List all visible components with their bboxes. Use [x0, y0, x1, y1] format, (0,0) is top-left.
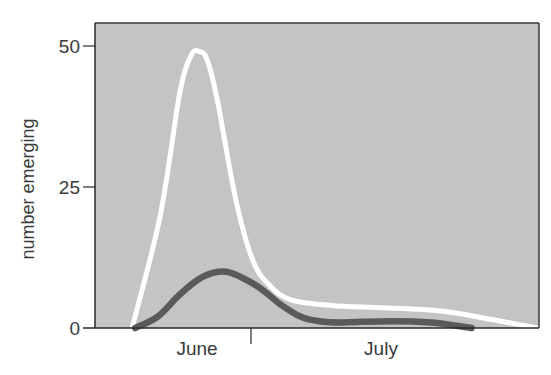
x-label-june: June — [176, 338, 217, 359]
plot-background — [95, 23, 539, 328]
y-tick-label-0: 0 — [69, 318, 80, 339]
y-tick-label-25: 25 — [59, 177, 80, 198]
emergence-line-chart: 50 25 0 June July number emerging — [0, 0, 551, 375]
y-tick-label-50: 50 — [59, 36, 80, 57]
y-axis-title: number emerging — [18, 118, 38, 259]
x-label-july: July — [364, 338, 398, 359]
